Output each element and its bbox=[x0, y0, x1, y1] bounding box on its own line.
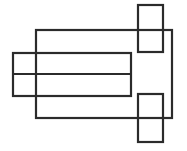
figure-canvas bbox=[0, 0, 187, 151]
top-right-square bbox=[138, 5, 163, 52]
line-drawing-svg bbox=[0, 0, 187, 151]
